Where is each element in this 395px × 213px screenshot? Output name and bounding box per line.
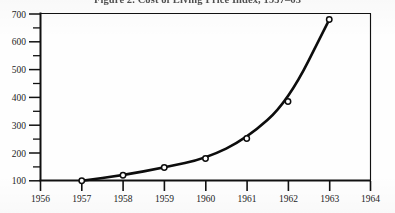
y-tick-label-100: 100: [12, 176, 27, 186]
y-tick-label-600: 600: [12, 37, 27, 47]
x-tick-label-1960: 1960: [196, 194, 215, 204]
data-point-1958: [120, 173, 125, 178]
x-tick-label-1959: 1959: [155, 194, 174, 204]
x-tick-label-1963: 1963: [320, 194, 339, 204]
y-tick-label-500: 500: [12, 65, 27, 75]
y-tick-label-300: 300: [12, 121, 27, 131]
series-markers: [79, 17, 332, 184]
x-axis-labels: 1956 1957 1958 1959 1960 1961 1962 1963 …: [31, 194, 380, 204]
y-axis-ticks: [29, 14, 40, 181]
y-tick-label-400: 400: [12, 93, 27, 103]
data-point-1957: [79, 178, 84, 183]
data-point-1962: [285, 99, 290, 104]
x-tick-label-1958: 1958: [114, 194, 133, 204]
y-tick-label-200: 200: [12, 149, 27, 159]
data-point-1961: [244, 136, 249, 141]
x-tick-label-1961: 1961: [238, 194, 257, 204]
x-tick-label-1956: 1956: [31, 194, 50, 204]
x-tick-label-1964: 1964: [361, 194, 380, 204]
data-point-1963: [327, 17, 332, 22]
data-point-1959: [162, 165, 167, 170]
x-axis-ticks: [41, 181, 371, 191]
x-tick-label-1957: 1957: [72, 194, 91, 204]
y-tick-label-700: 700: [12, 10, 27, 20]
data-series-cost-of-living: [79, 17, 332, 184]
line-chart: 700 600 500 400 300 200 100 1956 1957 19…: [0, 0, 395, 213]
figure-container: Figure 2. Cost of Living Price Index, 19…: [0, 0, 395, 213]
y-axis-labels: 700 600 500 400 300 200 100: [12, 10, 27, 187]
data-point-1960: [203, 156, 208, 161]
x-tick-label-1962: 1962: [279, 194, 298, 204]
